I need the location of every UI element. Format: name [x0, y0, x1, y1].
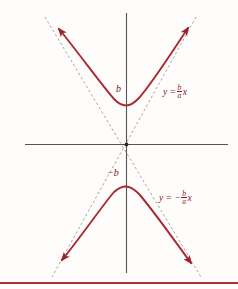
- upper-asymptote-lhs: y =: [163, 87, 176, 97]
- origin-point: [125, 143, 129, 147]
- upper-asymptote-variable: x: [183, 87, 187, 97]
- upper-vertex-label: b: [116, 84, 121, 94]
- lower-asymptote-variable: x: [188, 193, 192, 203]
- asymptote-positive-slope: [52, 17, 196, 277]
- lower-vertex-label: −b: [107, 168, 119, 178]
- upper-asymptote-denominator: a: [177, 92, 183, 100]
- upper-asymptote-fraction: ba: [177, 84, 183, 101]
- lower-asymptote-denominator: a: [181, 198, 187, 206]
- figure-canvas: [0, 0, 238, 289]
- lower-asymptote-equation: y = −bax: [159, 190, 192, 207]
- lower-asymptote-fraction: ba: [181, 190, 187, 207]
- upper-asymptote-equation: y =bax: [163, 84, 187, 101]
- bottom-red-rule: [0, 282, 238, 284]
- asymptote-negative-slope: [45, 17, 201, 277]
- hyperbola-figure: b −b y =bax y = −bax: [0, 0, 238, 289]
- lower-asymptote-lhs: y = −: [159, 193, 181, 203]
